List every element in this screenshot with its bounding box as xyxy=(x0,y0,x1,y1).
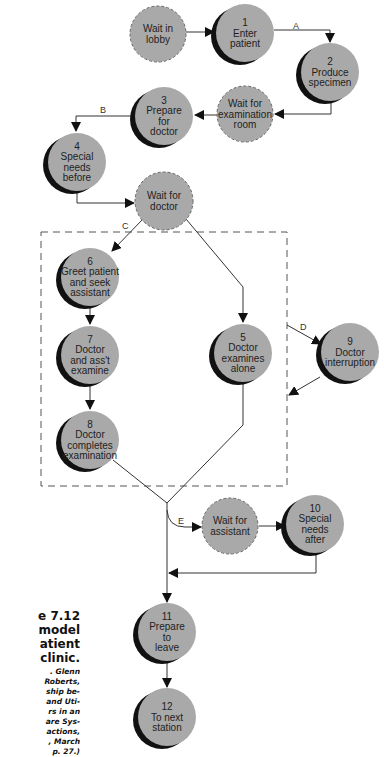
node-label: Doctor xyxy=(335,347,365,358)
figure-caption: e 7.12 model atient clinic. . Glenn Robe… xyxy=(0,609,80,757)
caption-cite-line: are Sys- xyxy=(0,717,80,727)
caption-cite-line: ship be- xyxy=(0,687,80,697)
caption-title-line: atient xyxy=(0,637,80,651)
node-label: specimen xyxy=(309,77,352,88)
node-label: doctor xyxy=(150,126,178,137)
node-number: 2 xyxy=(327,56,333,67)
node-label: Doctor xyxy=(228,342,258,353)
node-label: patient xyxy=(230,38,260,49)
node-label: Doctor xyxy=(75,429,105,440)
node-number: 10 xyxy=(309,503,321,514)
caption-cite-line: rs in an xyxy=(0,707,80,717)
node-label: Produce xyxy=(311,67,349,78)
edge-3-to-4 xyxy=(76,116,135,131)
node-number: 5 xyxy=(240,332,246,343)
caption-title: e 7.12 model atient clinic. xyxy=(0,609,80,665)
node-label: Special xyxy=(61,151,94,162)
node-number: 7 xyxy=(87,334,93,345)
node-label: examination xyxy=(218,109,272,120)
node-label: assistant xyxy=(210,526,250,537)
edge-label-c: C xyxy=(122,221,129,231)
node-n4: 4Specialneedsbefore xyxy=(43,133,106,194)
node-label: examines xyxy=(222,353,265,364)
caption-title-line: clinic. xyxy=(0,651,80,665)
node-n6: 6Greet patientand seekassistant xyxy=(56,248,119,309)
caption-cite-line: actions, xyxy=(0,727,80,737)
node-label: station xyxy=(152,722,181,733)
node-label: and seek xyxy=(70,277,112,288)
node-number: 11 xyxy=(162,611,173,622)
node-wait-exam: Wait forexaminationroom xyxy=(217,86,273,142)
edge-8-to-merge xyxy=(113,460,167,503)
node-number: 6 xyxy=(87,256,93,267)
node-n8: 8Doctorcompletesexamination xyxy=(56,411,119,472)
edge-5-to-merge xyxy=(167,382,243,503)
node-label: Prepare xyxy=(146,105,182,116)
caption-cite-line: . Glenn xyxy=(0,667,80,677)
node-label: examine xyxy=(71,365,109,376)
edge-label-d: D xyxy=(300,322,307,332)
node-n2: 2Producespecimen xyxy=(296,43,359,104)
caption-title-line: e 7.12 xyxy=(0,609,80,623)
edge-1-to-2 xyxy=(274,30,330,42)
node-label: Wait in xyxy=(143,23,173,34)
node-label: examination xyxy=(63,450,117,461)
node-n7: 7Doctorand ass'texamine xyxy=(56,326,119,387)
node-n12: 12To nextstation xyxy=(133,688,196,749)
caption-title-line: model xyxy=(0,623,80,637)
node-label: Enter xyxy=(233,28,258,39)
node-label: Greet patient xyxy=(61,266,119,277)
node-n1: 1Enterpatient xyxy=(211,4,274,65)
node-n11: 11Preparetoleave xyxy=(133,603,196,664)
edge-label-e: E xyxy=(178,516,184,526)
node-label: alone xyxy=(231,363,256,374)
caption-cite-line: and Uti- xyxy=(0,697,80,707)
node-label: after xyxy=(305,534,326,545)
node-label: needs xyxy=(301,524,328,535)
node-n9: 9Doctorinterruption xyxy=(316,323,379,384)
node-label: for xyxy=(158,116,170,127)
node-number: 4 xyxy=(74,141,80,152)
node-label: and ass't xyxy=(70,355,110,366)
node-label: leave xyxy=(155,642,179,653)
edge-wait-doctor-to-5 xyxy=(186,219,243,322)
node-label: before xyxy=(63,172,92,183)
node-label: assistant xyxy=(70,287,110,298)
node-n3: 3Preparefordoctor xyxy=(130,87,193,148)
node-label: to xyxy=(163,632,172,643)
node-number: 8 xyxy=(87,419,93,430)
node-label: To next xyxy=(151,712,183,723)
node-number: 1 xyxy=(242,17,248,28)
node-n10: 10Specialneedsafter xyxy=(281,495,344,556)
node-label: Special xyxy=(299,513,332,524)
node-label: Prepare xyxy=(149,621,185,632)
caption-cite-line: , March xyxy=(0,737,80,747)
node-wait-lobby: Wait inlobby xyxy=(130,6,186,62)
edge-label-a: A xyxy=(293,21,299,31)
edge-10-to-main xyxy=(169,553,316,573)
node-label: interruption xyxy=(325,357,375,368)
node-label: lobby xyxy=(146,34,170,45)
edge-9-to-box xyxy=(289,377,320,395)
node-label: room xyxy=(234,119,257,130)
node-label: needs xyxy=(63,162,90,173)
edge-label-b: B xyxy=(100,105,106,115)
node-label: doctor xyxy=(150,201,178,212)
node-label: Wait for xyxy=(213,515,248,526)
edge-4-to-wait-doctor xyxy=(77,191,134,203)
node-wait-doctor: Wait fordoctor xyxy=(135,172,193,230)
node-number: 12 xyxy=(161,701,173,712)
node-wait-assistant: Wait forassistant xyxy=(202,498,258,554)
node-n5: 5Doctorexaminesalone xyxy=(209,324,272,385)
edge-labels: ABCDE xyxy=(100,21,307,526)
node-number: 3 xyxy=(161,95,167,106)
node-label: completes xyxy=(67,440,113,451)
node-number: 9 xyxy=(347,336,353,347)
node-label: Wait for xyxy=(228,98,263,109)
caption-cite-line: p. 27.) xyxy=(0,747,80,757)
node-label: Doctor xyxy=(75,344,105,355)
node-label: Wait for xyxy=(147,190,182,201)
caption-citation: . Glenn Roberts, ship be- and Uti- rs in… xyxy=(0,667,80,757)
caption-cite-line: Roberts, xyxy=(0,677,80,687)
